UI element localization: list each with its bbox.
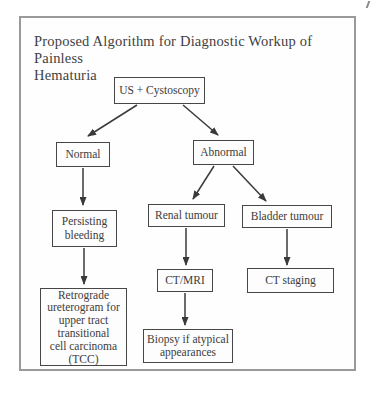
node-renal-tumour: Renal tumour xyxy=(148,204,225,227)
diagram-page: Proposed Algorithm for Diagnostic Workup… xyxy=(0,0,374,397)
node-bladder-tumour: Bladder tumour xyxy=(242,205,332,228)
scan-artifact xyxy=(366,1,374,8)
node-ct-mri: CT/MRI xyxy=(157,269,213,292)
node-abnormal: Abnormal xyxy=(193,140,254,165)
node-ct-staging: CT staging xyxy=(247,268,334,293)
node-normal: Normal xyxy=(56,142,110,167)
node-persisting-bleeding: Persisting bleeding xyxy=(52,210,117,247)
diagram-title-line1: Proposed Algorithm for Diagnostic Workup… xyxy=(34,33,346,67)
node-biopsy: Biopsy if atypical appearances xyxy=(143,329,233,363)
node-us-cystoscopy: US + Cystoscopy xyxy=(114,77,205,104)
node-retrograde-ureterogram: Retrograde ureterogram for upper tract t… xyxy=(40,288,127,366)
